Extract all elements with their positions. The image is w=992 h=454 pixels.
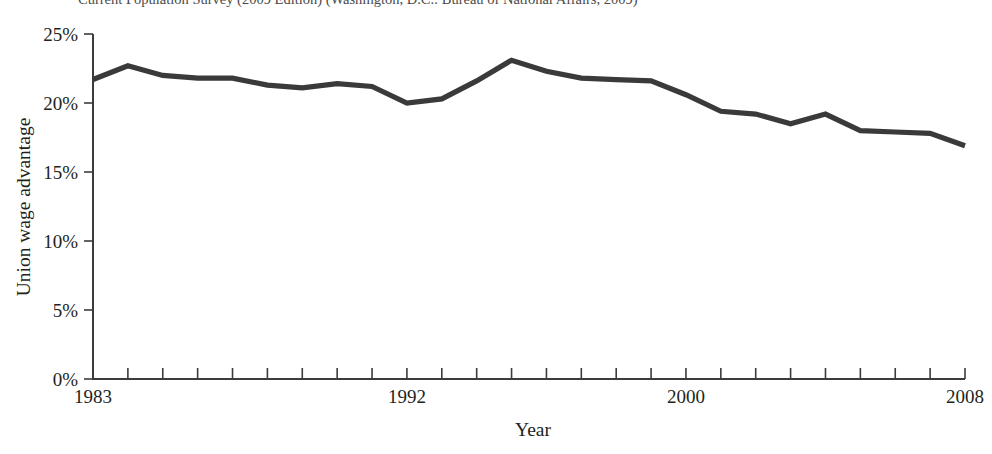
y-axis-ticks: [84, 34, 93, 379]
y-axis-tick-label: 10%: [43, 231, 78, 252]
x-axis-ticks: [128, 368, 965, 379]
chart-page: Current Population Survey (2009 Edition)…: [0, 0, 992, 454]
line-chart: 0%5%10%15%20%25% 1983199220002008 Union …: [0, 0, 992, 454]
y-axis-tick-labels: 0%5%10%15%20%25%: [43, 24, 78, 390]
data-series-line: [93, 60, 965, 146]
x-axis-tick-label: 1992: [388, 386, 426, 407]
chart-svg: 0%5%10%15%20%25% 1983199220002008 Union …: [0, 0, 992, 454]
x-axis-tick-labels: 1983199220002008: [74, 386, 984, 407]
y-axis-tick-label: 5%: [53, 300, 79, 321]
axis-lines: [93, 34, 965, 379]
y-axis-tick-label: 15%: [43, 162, 78, 183]
x-axis-tick-label: 2000: [667, 386, 705, 407]
x-axis-title: Year: [515, 419, 551, 440]
y-axis-tick-label: 20%: [43, 93, 78, 114]
y-axis-title: Union wage advantage: [13, 118, 34, 297]
x-axis-tick-label: 2008: [946, 386, 984, 407]
x-axis-tick-label: 1983: [74, 386, 112, 407]
y-axis-tick-label: 25%: [43, 24, 78, 45]
